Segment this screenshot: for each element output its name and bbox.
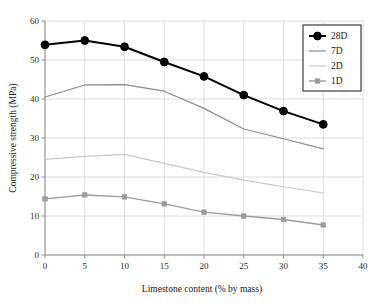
legend-square-marker [315, 79, 319, 83]
legend-label: 1D [331, 76, 343, 86]
chart-canvas: 0102030405060 0510152025303540 28D7D2D1D… [0, 0, 389, 307]
data-point-marker [160, 58, 168, 66]
legend-label: 2D [331, 61, 343, 71]
x-axis-tick-label: 5 [83, 261, 88, 271]
x-axis-tick-label: 20 [200, 261, 210, 271]
data-point-marker [202, 210, 206, 214]
data-point-marker [281, 217, 285, 221]
data-point-marker [43, 197, 47, 201]
y-axis-tick-label: 40 [30, 94, 40, 104]
data-point-marker [162, 202, 166, 206]
x-axis-tick-label: 40 [359, 261, 369, 271]
compressive-strength-chart: 0102030405060 0510152025303540 28D7D2D1D… [0, 0, 389, 307]
data-point-marker [122, 195, 126, 199]
data-point-marker [319, 120, 327, 128]
data-point-marker [200, 72, 208, 80]
y-axis-tick-label: 20 [30, 172, 40, 182]
data-point-marker [240, 91, 248, 99]
data-point-marker [83, 193, 87, 197]
x-axis-tick-label: 25 [239, 261, 249, 271]
legend-label: 7D [331, 46, 343, 56]
y-axis-tick-label: 30 [30, 133, 40, 143]
x-axis-tick-label: 30 [279, 261, 289, 271]
legend[interactable]: 28D7D2D1D [303, 25, 361, 91]
y-axis-tick-label: 50 [30, 55, 40, 65]
data-point-marker [81, 37, 89, 45]
y-axis-title: Compressive strength (MPa) [8, 83, 19, 192]
x-axis-tick-label: 0 [43, 261, 48, 271]
x-axis-tick-label: 10 [120, 261, 130, 271]
y-axis-tick-label: 0 [35, 250, 40, 260]
legend-diamond-marker [314, 32, 322, 40]
x-axis-tick-label: 15 [160, 261, 170, 271]
data-point-marker [121, 43, 129, 51]
data-point-marker [280, 107, 288, 115]
data-point-marker [321, 223, 325, 227]
legend-label: 28D [331, 31, 348, 41]
x-axis-tick-label: 35 [319, 261, 329, 271]
x-axis-title: Limestone content (% by mass) [142, 284, 262, 295]
data-point-marker [242, 214, 246, 218]
y-axis-tick-label: 60 [30, 16, 40, 26]
y-axis-tick-label: 10 [30, 211, 40, 221]
data-point-marker [41, 41, 49, 49]
